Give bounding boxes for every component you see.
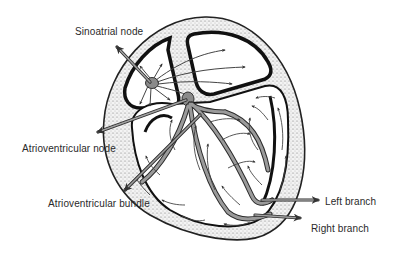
heart-conduction-diagram: Sinoatrial node Atrioventricular node At…: [0, 0, 401, 257]
label-left-branch: Left branch: [325, 196, 376, 207]
label-right-branch: Right branch: [311, 223, 369, 234]
label-sinoatrial-node: Sinoatrial node: [75, 26, 143, 37]
heart-illustration: [0, 0, 401, 257]
label-atrioventricular-bundle: Atrioventricular bundle: [48, 198, 150, 209]
label-atrioventricular-node: Atrioventricular node: [22, 143, 116, 154]
